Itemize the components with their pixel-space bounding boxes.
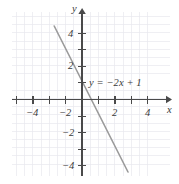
x-tick-label-minus-4: −4: [26, 108, 38, 119]
graph-canvas: [0, 0, 179, 184]
y-tick-label-4: 4: [68, 29, 73, 40]
axis-arrowheads: [78, 8, 172, 103]
x-tick-label-2: 2: [112, 108, 117, 119]
grid-lines: [12, 12, 170, 176]
y-tick-label-minus-2: −2: [62, 128, 74, 139]
y-tick-label-2: 2: [68, 61, 73, 72]
y-axis-label: y: [72, 4, 77, 15]
x-tick-label-4: 4: [145, 108, 150, 119]
x-tick-label-minus-2: −2: [59, 108, 71, 119]
coordinate-plane-figure: −4 −2 2 4 4 2 −2 −4 x y y = −2x + 1: [0, 0, 179, 184]
equation-annotation: y = −2x + 1: [89, 78, 142, 89]
y-tick-label-minus-4: −4: [62, 161, 74, 172]
x-axis-label: x: [167, 105, 172, 116]
